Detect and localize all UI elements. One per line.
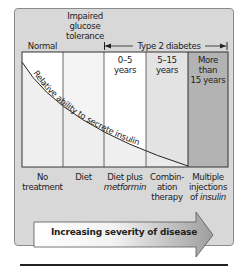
treatment-line: Diet	[63, 172, 104, 182]
treatment-line: Multiple	[185, 172, 231, 182]
treatment-line: of insulin	[185, 192, 231, 202]
duration-line: than	[188, 65, 228, 75]
treatment-label-diet-plus-metformin: Diet plus metformin	[102, 172, 148, 192]
duration-line: years	[104, 65, 146, 75]
stage-label-igt: Impaired glucose tolerance	[60, 11, 110, 41]
duration-line: 0–5	[104, 55, 146, 65]
stage-label-type2: Type 2 diabetes	[133, 41, 205, 51]
bracket-right-arrowhead	[220, 44, 226, 49]
treatment-label-combination-therapy: Combin- ation therapy	[146, 172, 188, 202]
treatment-line: ation	[146, 182, 188, 192]
severity-arrow-label: Increasing severity of disease	[34, 227, 214, 237]
treatment-label-insulin-injections: Multiple injections of insulin	[185, 172, 231, 202]
treatment-line: Combin-	[146, 172, 188, 182]
treatment-label-no-treatment: No treatment	[22, 172, 63, 192]
bottom-rule	[20, 264, 228, 266]
stage-label-normal: Normal	[22, 41, 63, 51]
duration-line: years	[146, 65, 188, 75]
treatment-line: therapy	[146, 192, 188, 202]
treatment-line-drug: metformin	[102, 182, 148, 192]
duration-line: 5–15	[146, 55, 188, 65]
column-top-label: More than 15 years	[188, 55, 228, 85]
treatment-line: treatment	[22, 182, 63, 192]
bracket-left-arrowhead	[105, 44, 111, 49]
duration-line: 15 years	[188, 75, 228, 85]
treatment-line: Diet plus	[102, 172, 148, 182]
column-top-label: 0–5 years	[104, 55, 146, 75]
treatment-line: No	[22, 172, 63, 182]
duration-line: More	[188, 55, 228, 65]
column-top-label: 5–15 years	[146, 55, 188, 75]
treatment-label-diet: Diet	[63, 172, 104, 182]
treatment-drug: insulin	[200, 192, 226, 202]
treatment-line: injections	[185, 182, 231, 192]
treatment-prefix: of	[190, 192, 200, 202]
